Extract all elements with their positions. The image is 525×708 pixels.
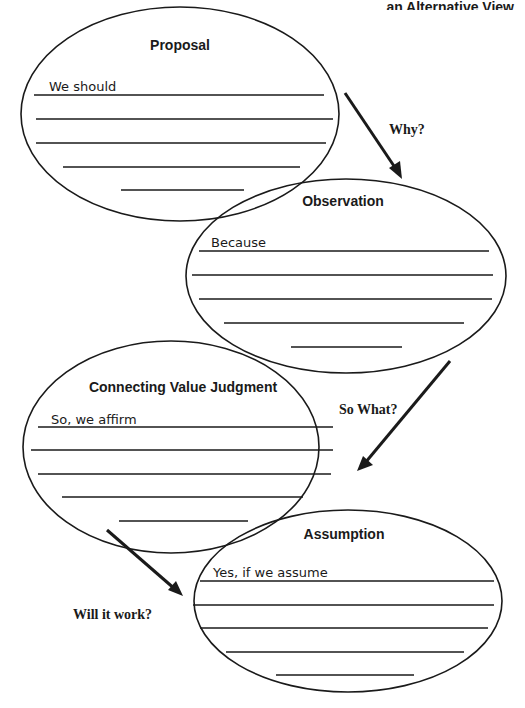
edge-label-so-what: So What? — [339, 402, 397, 417]
edge-label-will-it-work: Will it work? — [73, 607, 152, 622]
observation-prompt: Because — [211, 235, 266, 250]
edge-label-why: Why? — [389, 122, 425, 137]
edge-why: Why? — [345, 93, 425, 179]
node-observation: Observation Because — [186, 179, 506, 373]
node-assumption: Assumption Yes, if we assume — [193, 510, 502, 692]
edge-will-it-work: Will it work? — [73, 530, 183, 622]
proposal-title: Proposal — [150, 37, 210, 53]
proposal-prompt: We should — [49, 79, 116, 94]
argument-flow-diagram: an Alternative View Proposal We should W… — [0, 0, 525, 708]
edge-so-what: So What? — [339, 361, 450, 471]
value-judgment-prompt: So, we affirm — [51, 412, 137, 427]
node-value-judgment: Connecting Value Judgment So, we affirm — [23, 341, 333, 553]
assumption-prompt: Yes, if we assume — [212, 565, 328, 580]
page-header: an Alternative View — [386, 0, 514, 15]
assumption-title: Assumption — [304, 526, 385, 542]
arrow-line — [107, 530, 176, 590]
value-judgment-title: Connecting Value Judgment — [89, 379, 278, 395]
node-proposal: Proposal We should — [21, 7, 339, 221]
observation-title: Observation — [302, 193, 384, 209]
